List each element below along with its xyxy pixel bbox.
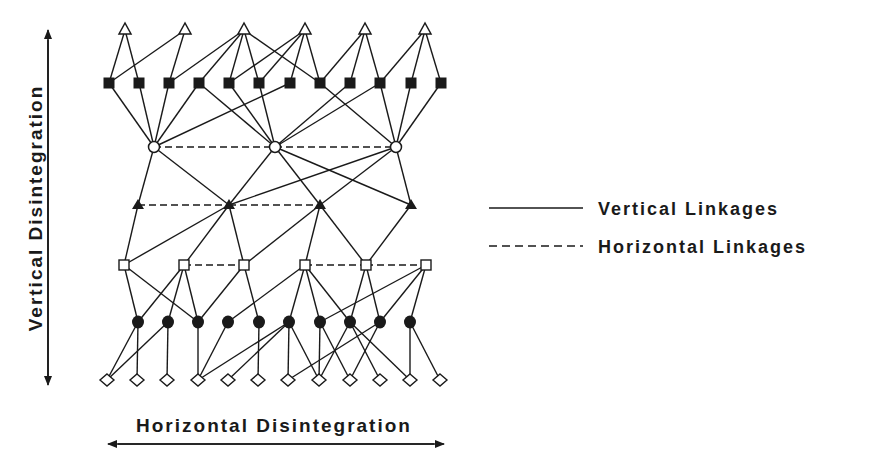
open-square-node bbox=[179, 260, 189, 270]
open-diamond-node bbox=[343, 374, 357, 386]
vertical-linkage bbox=[396, 147, 411, 205]
vertical-linkage bbox=[350, 265, 366, 322]
filled-circle-node bbox=[132, 316, 144, 329]
open-triangle-node bbox=[299, 23, 311, 34]
vertical-linkage bbox=[169, 30, 185, 83]
filled-square-node bbox=[285, 78, 296, 89]
vertical-linkage bbox=[320, 147, 396, 205]
vertical-linkage bbox=[167, 322, 168, 380]
vertical-linkage bbox=[366, 205, 411, 265]
filled-square-node bbox=[315, 78, 326, 89]
open-circle-node bbox=[149, 142, 160, 153]
vertical-linkage bbox=[107, 322, 138, 380]
vertical-linkage bbox=[138, 265, 184, 322]
horizontal-axis-label: Horizontal Disintegration bbox=[136, 415, 412, 436]
vertical-linkage bbox=[275, 83, 380, 147]
legend: Vertical Linkages Horizontal Linkages bbox=[489, 199, 807, 257]
filled-square-node bbox=[104, 78, 115, 89]
vertical-linkage bbox=[275, 147, 411, 205]
open-diamond-node bbox=[191, 374, 205, 386]
vertical-linkage bbox=[320, 205, 366, 265]
filled-circle-node bbox=[374, 316, 386, 329]
vertical-axis-label: Vertical Disintegration bbox=[25, 85, 46, 332]
filled-circle-node bbox=[283, 316, 295, 329]
open-square-node bbox=[239, 260, 249, 270]
vertical-linkage bbox=[154, 83, 199, 147]
vertical-linkage bbox=[320, 30, 365, 83]
vertical-linkage bbox=[198, 322, 289, 380]
filled-square-node bbox=[194, 78, 205, 89]
filled-circle-node bbox=[344, 316, 356, 329]
vertical-linkage bbox=[350, 322, 410, 380]
vertical-linkage bbox=[199, 83, 275, 147]
vertical-linkage bbox=[244, 30, 259, 83]
filled-circle-node bbox=[192, 316, 204, 329]
filled-square-node bbox=[345, 78, 356, 89]
vertical-axis: Vertical Disintegration bbox=[25, 30, 48, 385]
filled-square-node bbox=[224, 78, 235, 89]
open-triangle-node bbox=[119, 23, 131, 34]
filled-circle-node bbox=[222, 316, 234, 329]
vertical-linkage bbox=[229, 205, 244, 265]
vertical-linkage bbox=[425, 30, 441, 83]
vertical-linkage bbox=[288, 322, 380, 380]
vertical-linkage bbox=[124, 205, 229, 265]
vertical-linkage bbox=[275, 83, 350, 147]
vertical-linkage bbox=[154, 83, 290, 147]
vertical-linkage bbox=[396, 83, 441, 147]
filled-square-node bbox=[164, 78, 175, 89]
vertical-linkage bbox=[305, 265, 350, 322]
open-circle-node bbox=[391, 142, 402, 153]
vertical-linkage bbox=[380, 265, 426, 322]
vertical-linkage bbox=[138, 147, 154, 205]
open-square-node bbox=[421, 260, 431, 270]
horizontal-linkages bbox=[138, 147, 426, 265]
vertical-linkage bbox=[320, 265, 426, 322]
filled-circle-node bbox=[404, 316, 416, 329]
filled-circle-node bbox=[253, 316, 265, 329]
vertical-linkage bbox=[124, 205, 138, 265]
open-diamond-node bbox=[251, 374, 265, 386]
legend-horizontal-linkages-label: Horizontal Linkages bbox=[598, 237, 807, 257]
open-triangle-node bbox=[238, 23, 250, 34]
vertical-linkage bbox=[410, 265, 426, 322]
vertical-linkage bbox=[109, 30, 125, 83]
filled-square-node bbox=[436, 78, 447, 89]
vertical-linkage bbox=[320, 83, 396, 147]
legend-vertical-linkages-label: Vertical Linkages bbox=[598, 199, 779, 219]
vertical-linkage bbox=[289, 322, 319, 380]
industrial-disintegration-diagram: Vertical Disintegration Horizontal Disin… bbox=[0, 0, 871, 461]
filled-square-node bbox=[406, 78, 417, 89]
horizontal-axis: Horizontal Disintegration bbox=[108, 415, 444, 444]
vertical-linkage bbox=[288, 322, 289, 380]
vertical-linkage bbox=[289, 265, 305, 322]
vertical-linkage bbox=[305, 205, 320, 265]
open-diamond-node bbox=[130, 374, 144, 386]
open-diamond-node bbox=[312, 374, 326, 386]
open-square-node bbox=[300, 260, 310, 270]
open-diamond-node bbox=[373, 374, 387, 386]
open-circle-node bbox=[270, 142, 281, 153]
vertical-linkage bbox=[244, 205, 320, 265]
open-triangle-node bbox=[179, 23, 191, 34]
filled-square-node bbox=[254, 78, 265, 89]
filled-triangle-node bbox=[405, 199, 417, 209]
vertical-linkage bbox=[229, 30, 305, 83]
vertical-linkage bbox=[109, 30, 185, 83]
vertical-linkage bbox=[228, 265, 305, 322]
open-diamond-node bbox=[433, 374, 447, 386]
filled-square-node bbox=[375, 78, 386, 89]
filled-square-node bbox=[134, 78, 145, 89]
vertical-linkage bbox=[259, 83, 275, 147]
open-square-node bbox=[119, 260, 129, 270]
vertical-linkage bbox=[125, 30, 139, 83]
vertical-linkage bbox=[319, 322, 320, 380]
open-diamond-node bbox=[281, 374, 295, 386]
open-triangle-node bbox=[359, 23, 371, 34]
vertical-linkage bbox=[244, 265, 259, 322]
open-triangle-node bbox=[419, 23, 431, 34]
vertical-linkage bbox=[198, 322, 228, 380]
vertical-linkage bbox=[109, 83, 154, 147]
filled-circle-node bbox=[314, 316, 326, 329]
vertical-linkage bbox=[198, 265, 244, 322]
